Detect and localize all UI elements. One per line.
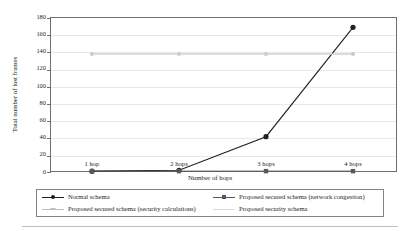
legend-marker-line-icon (213, 205, 235, 213)
legend-label: Normal schema (68, 193, 110, 201)
legend-item-proposed-security-schema[interactable]: Proposed security schema (210, 205, 381, 213)
legend-item-security-calculations[interactable]: Proposed secured schema (security calcul… (39, 205, 210, 213)
x-axis-title: Number of hops (0, 174, 420, 181)
y-tick-label: 140 (36, 48, 46, 54)
legend-item-normal-schema[interactable]: Normal schema (39, 193, 210, 201)
legend-item-network-congestion[interactable]: Proposed secured schema (network congest… (210, 193, 381, 201)
y-tick-label: 80 (40, 100, 46, 106)
x-tick-label: 4 hops (344, 160, 361, 167)
data-point (351, 169, 355, 173)
chart-figure: 180 160 140 120 100 80 60 40 20 0 1 hop (0, 0, 420, 231)
legend-marker-dash-icon (42, 205, 64, 213)
x-tick-label: 1 hop (85, 160, 100, 167)
x-tick-label: 2 hops (170, 160, 187, 167)
legend-marker-circle-icon (42, 193, 64, 201)
series-line-0 (92, 27, 353, 171)
data-point (350, 25, 355, 30)
legend-marker-square-icon (213, 193, 235, 201)
y-tick-label: 100 (36, 83, 46, 89)
y-tick-label: 180 (36, 14, 46, 20)
y-tick-label: 120 (36, 65, 46, 71)
data-point (264, 169, 268, 173)
legend-label: Proposed secured schema (network congest… (239, 193, 365, 201)
chart-legend: Normal schema Proposed secured schema (n… (36, 189, 384, 217)
y-axis-title: Total number of lost frames (9, 17, 21, 172)
footer-divider (22, 226, 398, 227)
x-tick-label: 3 hops (257, 160, 274, 167)
y-tick-label: 20 (40, 151, 46, 157)
y-tick-label: 40 (40, 134, 46, 140)
data-point (177, 169, 181, 173)
data-point (90, 169, 94, 173)
y-tick-mark (47, 172, 51, 173)
data-point (263, 134, 268, 139)
y-tick-label: 160 (36, 31, 46, 37)
y-tick-label: 60 (40, 117, 46, 123)
y-axis-tick-labels: 180 160 140 120 100 80 60 40 20 0 (22, 17, 46, 172)
legend-label: Proposed secured schema (security calcul… (68, 205, 196, 213)
data-series-layer (50, 17, 397, 172)
legend-label: Proposed security schema (239, 205, 307, 213)
